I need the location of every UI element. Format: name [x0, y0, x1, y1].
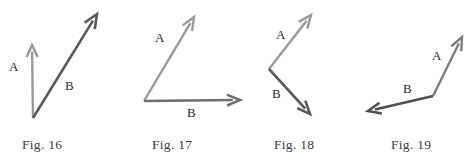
- figure-group-fig-16: [27, 14, 97, 118]
- vector-b-arrowhead-icon: [85, 14, 97, 29]
- vector-b-shaft: [33, 21, 93, 118]
- vector-a-shaft: [32, 52, 33, 118]
- vector-b-shaft: [144, 100, 233, 101]
- figure-group-fig-19: [368, 37, 462, 113]
- figure-sheet: ABFig. 16ABFig. 17ABFig. 18ABFig. 19: [0, 0, 475, 159]
- vector-b-shaft: [375, 96, 433, 109]
- vector-label-a: A: [9, 60, 18, 73]
- vector-label-a: A: [432, 49, 441, 62]
- vector-label-b: B: [403, 82, 412, 95]
- figure-caption-fig-18: Fig. 18: [274, 138, 314, 152]
- vector-label-a: A: [276, 28, 285, 41]
- vector-label-b: B: [187, 106, 196, 119]
- vector-label-a: A: [155, 31, 164, 44]
- figure-caption-fig-17: Fig. 17: [152, 138, 192, 152]
- vector-a-shaft: [144, 23, 190, 101]
- figure-caption-fig-19: Fig. 19: [391, 138, 431, 152]
- vector-label-b: B: [65, 79, 74, 92]
- vector-label-b: B: [272, 87, 281, 100]
- vector-a-shaft: [269, 21, 307, 69]
- figure-caption-fig-16: Fig. 16: [22, 138, 62, 152]
